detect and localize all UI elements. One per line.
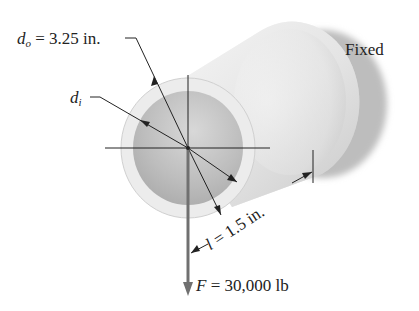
fixed-support-label: Fixed — [345, 41, 384, 58]
force-arrowhead — [183, 282, 193, 296]
center-point — [186, 146, 190, 150]
force-label: F = 30,000 lb — [196, 277, 289, 294]
length-arrowhead-left — [191, 245, 200, 253]
outer-diameter-label: do = 3.25 in. — [17, 30, 101, 49]
outer-diameter-arrowhead-top — [151, 76, 158, 86]
inner-diameter-label: di — [70, 89, 82, 108]
